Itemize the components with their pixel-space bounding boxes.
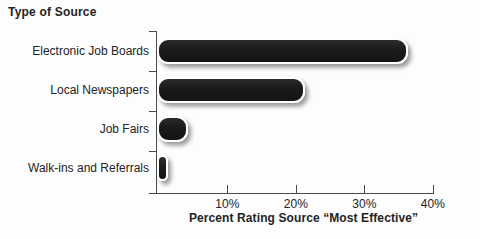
bar [157, 77, 305, 103]
bar [157, 38, 408, 64]
x-axis-title: Percent Rating Source “Most Effective” [160, 211, 447, 225]
x-axis-line [149, 193, 434, 194]
x-axis-tick-label: 40% [411, 197, 455, 211]
bar-chart: Type of Source Electronic Job BoardsLoca… [0, 0, 480, 239]
x-axis-tick-label: 20% [274, 197, 318, 211]
x-axis-tick [227, 185, 228, 193]
x-axis-tick [296, 185, 297, 193]
category-tick [149, 71, 156, 72]
category-tick [149, 111, 156, 112]
bar [157, 155, 168, 181]
category-tick [149, 151, 156, 152]
bar [157, 116, 188, 142]
category-label: Local Newspapers [0, 83, 149, 97]
x-axis-tick [364, 185, 365, 193]
x-axis-tick-label: 10% [205, 197, 249, 211]
category-label: Electronic Job Boards [0, 44, 149, 58]
x-axis-tick [433, 185, 434, 193]
category-label: Walk-ins and Referrals [0, 161, 149, 175]
category-tick [149, 31, 156, 32]
category-label: Job Fairs [0, 122, 149, 136]
x-axis-tick-label: 30% [342, 197, 386, 211]
chart-title: Type of Source [8, 5, 97, 19]
